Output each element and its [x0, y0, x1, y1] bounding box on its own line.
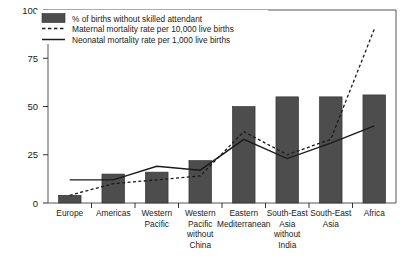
bar-eastern-mediterranean: [232, 107, 255, 204]
bar-series: [58, 95, 385, 203]
x-label-africa: Africa: [364, 208, 386, 218]
chart-figure: 100 75 50 25 0 EuropeAmericasWesternPaci…: [0, 0, 403, 261]
legend-label-neonatal-mortality: Neonatal mortality rate per 1,000 live b…: [72, 35, 230, 45]
chart-container: 100 75 50 25 0 EuropeAmericasWesternPaci…: [0, 0, 403, 261]
y-tick-label-75: 75: [27, 53, 38, 64]
y-axis-tick-labels: 100 75 50 25 0: [22, 5, 38, 209]
x-label-western-pacific-without-china: WesternPacificwithoutChina: [185, 208, 216, 250]
x-label-europe: Europe: [56, 208, 83, 218]
y-tick-label-25: 25: [27, 149, 38, 160]
bar-western-pacific: [145, 172, 168, 203]
legend-label-births-without-attendant: % of births without skilled attendant: [72, 14, 203, 24]
bar-africa: [363, 95, 386, 203]
x-label-western-pacific: WesternPacific: [141, 208, 172, 229]
y-tick-label-50: 50: [27, 101, 38, 112]
y-tick-label-0: 0: [33, 198, 38, 209]
x-label-south-east-asia-without-india: South-EastAsiawithoutIndia: [267, 208, 309, 250]
y-tick-label-100: 100: [22, 5, 38, 16]
x-label-americas: Americas: [96, 208, 131, 218]
x-label-eastern-mediterranean: EasternMediterranean: [217, 208, 271, 229]
bar-western-pacific-without-china: [189, 161, 212, 203]
x-label-south-east-asia: South-EastAsia: [310, 208, 352, 229]
bar-americas: [102, 174, 125, 203]
bar-europe: [58, 195, 81, 203]
legend-label-maternal-mortality: Maternal mortality rate per 10,000 live …: [72, 24, 234, 34]
chart-legend: % of births without skilled attendant Ma…: [36, 10, 268, 45]
x-axis-category-labels: EuropeAmericasWesternPacificWesternPacif…: [56, 208, 385, 250]
bar-swatch-icon: [42, 14, 65, 23]
bar-south-east-asia: [319, 97, 342, 203]
